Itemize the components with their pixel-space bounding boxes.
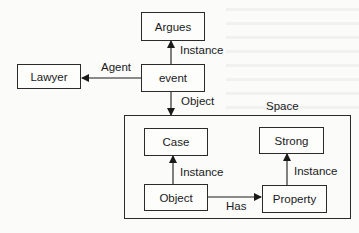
- node-lawyer-label: Lawyer: [30, 71, 67, 83]
- node-lawyer: Lawyer: [17, 64, 81, 89]
- node-argues-label: Argues: [155, 21, 191, 33]
- edge-label-instance-case: Instance: [180, 166, 223, 178]
- node-argues: Argues: [141, 12, 205, 41]
- edge-label-agent: Agent: [101, 61, 131, 73]
- edge-label-has: Has: [226, 200, 246, 212]
- edge-label-instance-argues: Instance: [180, 44, 223, 56]
- edge-label-instance-strong: Instance: [294, 165, 337, 177]
- node-event: event: [141, 64, 205, 92]
- node-property: Property: [262, 185, 327, 213]
- node-event-label: event: [159, 72, 187, 84]
- node-strong: Strong: [259, 127, 324, 154]
- node-property-label: Property: [273, 193, 316, 205]
- node-case-label: Case: [163, 136, 190, 148]
- node-case: Case: [144, 128, 208, 156]
- node-object-label: Object: [159, 192, 192, 204]
- node-strong-label: Strong: [275, 135, 309, 147]
- edge-label-object: Object: [181, 95, 214, 107]
- node-object: Object: [144, 184, 208, 211]
- container-label-space: Space: [266, 100, 299, 112]
